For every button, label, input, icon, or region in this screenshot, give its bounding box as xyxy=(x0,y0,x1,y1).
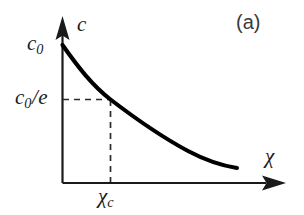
c0e-denominator: e xyxy=(38,85,47,109)
c0-base: c xyxy=(27,31,36,55)
c0e-base: c xyxy=(15,85,24,109)
y-tick-label-c0-over-e: c0/e xyxy=(15,87,47,110)
panel-label: (a) xyxy=(236,12,260,32)
chic-base: χ xyxy=(98,184,107,208)
c0-subscript: 0 xyxy=(36,41,43,57)
chic-subscript: c xyxy=(107,194,113,210)
x-tick-label-chi-c: χc xyxy=(98,186,114,209)
x-axis-label: χ xyxy=(265,146,274,167)
y-axis-label: c xyxy=(77,14,86,35)
exponential-decay-curve xyxy=(63,45,238,168)
figure-panel-a: c c0 c0/e χ χc (a) xyxy=(0,0,304,215)
y-tick-label-c0: c0 xyxy=(27,33,43,56)
